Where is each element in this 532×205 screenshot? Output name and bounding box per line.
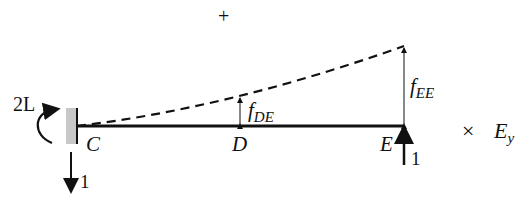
point-e-label: E [380,134,393,155]
multiplier-label: Ey [494,120,514,142]
moment-arc-icon [38,110,52,143]
point-d-label: D [232,134,247,155]
load-label: 1 [411,149,421,168]
deflection-e-label: fEE [410,76,434,97]
multiply-symbol: × [462,120,474,142]
deflection-d-label: fDE [248,100,274,121]
reaction-label: 1 [80,172,90,191]
fixed-support [66,108,76,144]
point-c-label: C [86,134,100,155]
sign-label: + [218,6,229,26]
moment-label: 2L [13,94,35,114]
